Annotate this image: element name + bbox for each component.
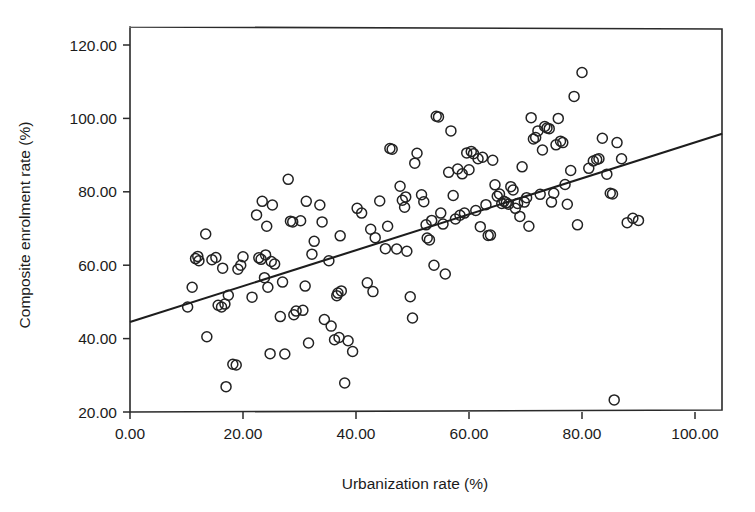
scatter-point	[383, 221, 393, 231]
scatter-point	[417, 190, 427, 200]
scatter-point	[307, 249, 317, 259]
x-axis-tick-labels: 0.0020.0040.0060.0080.00100.00	[115, 425, 719, 442]
scatter-point	[597, 133, 607, 143]
y-tick-label: 40.00	[78, 330, 117, 347]
x-tick-label: 0.00	[115, 425, 146, 442]
scatter-point	[612, 138, 622, 148]
scatter-point	[400, 202, 410, 212]
scatter-point	[326, 321, 336, 331]
scatter-point	[537, 145, 547, 155]
scatter-point	[402, 246, 412, 256]
scatter-point	[517, 162, 527, 172]
scatter-point	[218, 263, 228, 273]
scatter-point	[395, 181, 405, 191]
scatter-point	[405, 292, 415, 302]
x-tick-label: 80.00	[563, 425, 602, 442]
scatter-point	[515, 211, 525, 221]
y-tick-label: 20.00	[78, 404, 117, 421]
scatter-point	[408, 313, 418, 323]
scatter-point	[553, 113, 563, 123]
scatter-point	[335, 231, 345, 241]
scatter-point	[572, 220, 582, 230]
scatter-point	[278, 277, 288, 287]
x-tick-label: 20.00	[224, 425, 263, 442]
scatter-point	[247, 292, 257, 302]
scatter-point	[562, 199, 572, 209]
scatter-point	[315, 200, 325, 210]
scatter-point	[488, 155, 498, 165]
scatter-point	[524, 221, 534, 231]
x-tick-label: 60.00	[450, 425, 489, 442]
x-axis-title: Urbanization rate (%)	[342, 475, 488, 492]
chart-canvas: 0.0020.0040.0060.0080.00100.00 20.0040.0…	[0, 0, 755, 512]
scatter-point	[298, 305, 308, 315]
scatter-point	[280, 349, 290, 359]
scatter-point	[257, 196, 267, 206]
y-axis-tick-labels: 20.0040.0060.0080.00100.00120.00	[70, 37, 118, 421]
scatter-point	[440, 269, 450, 279]
scatter-point	[252, 210, 262, 220]
scatter-point	[380, 244, 390, 254]
scatter-point	[340, 378, 350, 388]
x-tick-label: 40.00	[337, 425, 376, 442]
scatter-point	[304, 338, 314, 348]
scatter-point	[577, 68, 587, 78]
scatter-point	[343, 336, 353, 346]
scatter-points-layer	[183, 68, 644, 405]
scatter-point	[508, 185, 518, 195]
scatter-point	[490, 180, 500, 190]
scatter-point	[429, 260, 439, 270]
scatter-point	[262, 221, 272, 231]
scatter-point	[263, 282, 273, 292]
regression-line	[130, 134, 722, 322]
scatter-point	[370, 233, 380, 243]
scatter-point	[448, 190, 458, 200]
scatter-point	[495, 189, 505, 199]
scatter-point	[309, 236, 319, 246]
scatter-point	[368, 287, 378, 297]
scatter-point	[392, 244, 402, 254]
x-tick-label: 100.00	[671, 425, 719, 442]
scatter-point	[301, 196, 311, 206]
x-axis-ticks	[130, 412, 695, 419]
scatter-point	[412, 148, 422, 158]
scatter-point	[283, 174, 293, 184]
scatter-point	[634, 215, 644, 225]
scatter-point	[609, 395, 619, 405]
scatter-point	[475, 222, 485, 232]
scatter-point	[265, 349, 275, 359]
scatter-point	[348, 346, 358, 356]
y-axis-title: Composite enrolment rate (%)	[16, 122, 33, 329]
scatter-point	[566, 166, 576, 176]
scatter-point	[584, 163, 594, 173]
scatter-point	[549, 188, 559, 198]
scatter-point	[617, 154, 627, 164]
scatter-point	[202, 332, 212, 342]
scatter-point	[492, 191, 502, 201]
y-tick-label: 120.00	[70, 37, 118, 54]
scatter-point	[375, 196, 385, 206]
scatter-plot-figure: 0.0020.0040.0060.0080.00100.00 20.0040.0…	[0, 0, 755, 512]
scatter-point	[526, 113, 536, 123]
y-axis-ticks	[123, 45, 130, 412]
scatter-point	[275, 312, 285, 322]
scatter-point	[187, 282, 197, 292]
y-tick-label: 60.00	[78, 257, 117, 274]
scatter-point	[410, 158, 420, 168]
scatter-point	[446, 126, 456, 136]
scatter-point	[569, 91, 579, 101]
scatter-point	[300, 281, 310, 291]
y-tick-label: 100.00	[70, 110, 118, 127]
scatter-point	[436, 208, 446, 218]
scatter-point	[201, 229, 211, 239]
scatter-point	[419, 197, 429, 207]
scatter-point	[424, 235, 434, 245]
y-tick-label: 80.00	[78, 183, 117, 200]
scatter-point	[267, 200, 277, 210]
scatter-point	[317, 217, 327, 227]
scatter-point	[506, 182, 516, 192]
scatter-point	[221, 382, 231, 392]
